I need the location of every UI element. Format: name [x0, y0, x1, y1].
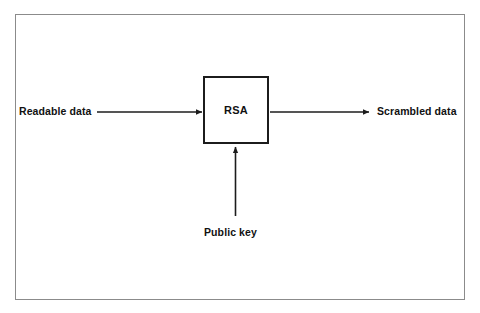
key-label-public-key: Public key: [204, 227, 257, 238]
diagram-border-frame: [15, 14, 465, 300]
rsa-process-box: RSA: [203, 76, 269, 144]
diagram-canvas: RSA --> Scrambled data --> RSA (vertical…: [0, 0, 480, 313]
input-label-readable-data: Readable data: [19, 106, 92, 117]
output-label-scrambled-data: Scrambled data: [377, 106, 457, 117]
rsa-process-label: RSA: [224, 105, 248, 116]
